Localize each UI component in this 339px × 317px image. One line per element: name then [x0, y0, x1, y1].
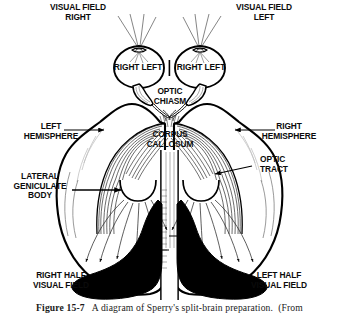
label-right-hemisphere: RIGHT HEMISPHERE: [246, 122, 332, 141]
label-optic-chiasm: OPTIC CHIASM: [140, 87, 200, 106]
label-lateral-geniculate-body: LATERAL GENICULATE BODY: [3, 172, 77, 201]
label-left-hemisphere: LEFT HEMISPHERE: [8, 122, 94, 141]
figure-caption: Figure 15-7 A diagram of Sperry's split-…: [0, 302, 339, 313]
label-right-half-visual-field: RIGHT HALF VISUAL FIELD: [22, 271, 100, 290]
figure-split-brain: VISUAL FIELD RIGHT VISUAL FIELD LEFT RIG…: [0, 0, 339, 317]
label-left-half-visual-field: LEFT HALF VISUAL FIELD: [240, 271, 318, 290]
figure-caption-text: A diagram of Sperry's split-brain prepar…: [92, 302, 303, 313]
label-corpus-callosum: CORPUS CALLOSUM: [138, 130, 202, 149]
label-visual-field-left: VISUAL FIELD LEFT: [212, 3, 316, 22]
figure-caption-label: Figure 15-7: [36, 302, 85, 313]
label-eye-left-orientation: RIGHT LEFT: [108, 63, 168, 73]
label-visual-field-right: VISUAL FIELD RIGHT: [26, 3, 130, 22]
midline-split: [161, 150, 178, 300]
label-optic-tract: OPTIC TRACT: [260, 155, 316, 174]
label-eye-right-orientation: RIGHT LEFT: [171, 63, 231, 73]
eye-label-divider: [169, 60, 171, 76]
